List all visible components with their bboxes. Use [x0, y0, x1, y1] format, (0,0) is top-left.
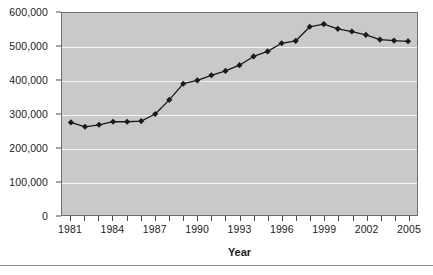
x-axis-title: Year — [61, 246, 418, 258]
data-point-marker — [349, 28, 355, 34]
x-tick-label: 1981 — [58, 223, 82, 235]
x-tick-mark — [395, 216, 396, 221]
data-point-marker — [335, 26, 341, 32]
x-tick-mark — [183, 216, 184, 221]
data-point-marker — [279, 40, 285, 46]
x-tick-mark — [225, 216, 226, 221]
x-tick-mark — [282, 216, 283, 221]
x-tick-mark — [141, 216, 142, 221]
x-tick-mark — [127, 216, 128, 221]
plot-area — [61, 12, 418, 216]
data-point-marker — [96, 122, 102, 128]
data-point-marker — [68, 119, 74, 125]
chart-figure: 0100,000200,000300,000400,000500,000600,… — [0, 0, 433, 275]
y-axis: 0100,000200,000300,000400,000500,000600,… — [0, 0, 56, 228]
x-tick-label: 1999 — [312, 223, 336, 235]
data-point-marker — [391, 38, 397, 44]
y-tick-label: 100,000 — [9, 176, 48, 188]
x-tick-label: 1990 — [185, 223, 209, 235]
x-tick-label: 2002 — [355, 223, 379, 235]
x-tick-mark — [254, 216, 255, 221]
data-point-marker — [82, 124, 88, 130]
x-tick-mark — [197, 216, 198, 221]
data-point-marker — [377, 37, 383, 43]
x-tick-label: 1987 — [143, 223, 167, 235]
data-point-marker — [363, 32, 369, 38]
data-point-marker — [405, 38, 411, 44]
x-tick-mark — [240, 216, 241, 221]
data-point-marker — [138, 118, 144, 124]
x-tick-label: 1996 — [270, 223, 294, 235]
y-tick-label: 400,000 — [9, 74, 48, 86]
x-tick-mark — [112, 216, 113, 221]
series-line-layer — [62, 13, 417, 215]
x-tick-mark — [310, 216, 311, 221]
x-tick-mark — [70, 216, 71, 221]
x-tick-label: 1993 — [228, 223, 252, 235]
x-tick-mark — [338, 216, 339, 221]
y-tick-label: 300,000 — [9, 108, 48, 120]
data-point-marker — [124, 119, 130, 125]
x-tick-mark — [98, 216, 99, 221]
x-axis-tick-labels: 198119841987199019931996199920022005 — [61, 223, 418, 239]
data-point-marker — [236, 62, 242, 68]
data-point-marker — [265, 48, 271, 54]
x-tick-mark — [367, 216, 368, 221]
data-point-marker — [208, 72, 214, 78]
y-tick-label: 200,000 — [9, 142, 48, 154]
x-tick-mark — [381, 216, 382, 221]
y-tick-label: 600,000 — [9, 6, 48, 18]
x-tick-mark — [409, 216, 410, 221]
series-line — [71, 24, 408, 127]
data-point-marker — [321, 21, 327, 27]
x-tick-label: 1984 — [100, 223, 124, 235]
data-point-marker — [250, 53, 256, 59]
x-tick-mark — [155, 216, 156, 221]
data-point-marker — [110, 119, 116, 125]
x-tick-mark — [296, 216, 297, 221]
x-axis-tick-marks — [61, 216, 418, 222]
x-tick-label: 2005 — [397, 223, 421, 235]
data-point-marker — [222, 68, 228, 74]
y-tick-label: 500,000 — [9, 40, 48, 52]
x-tick-mark — [324, 216, 325, 221]
x-tick-mark — [169, 216, 170, 221]
x-tick-mark — [84, 216, 85, 221]
x-tick-mark — [353, 216, 354, 221]
x-tick-mark — [268, 216, 269, 221]
y-tick-label: 0 — [42, 210, 48, 222]
data-point-marker — [194, 77, 200, 83]
footer-divider — [0, 265, 433, 266]
x-tick-mark — [211, 216, 212, 221]
